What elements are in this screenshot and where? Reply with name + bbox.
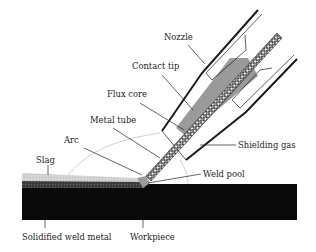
fcaw-diagram: Nozzle Contact tip Flux core Metal tube … xyxy=(0,0,316,252)
workpiece-block xyxy=(22,184,297,220)
label-flux-core: Flux core xyxy=(107,89,147,99)
leader-nozzle xyxy=(188,45,205,64)
wire-electrode xyxy=(146,33,282,181)
leader-arc xyxy=(84,148,142,175)
label-shielding-gas: Shielding gas xyxy=(238,140,296,150)
gas-envelope-left xyxy=(68,133,160,175)
label-weld-pool: Weld pool xyxy=(203,169,245,179)
label-contact-tip: Contact tip xyxy=(132,61,179,71)
slag-layer xyxy=(22,173,142,182)
label-metal-tube: Metal tube xyxy=(90,115,136,125)
leader-metal-tube xyxy=(113,128,160,158)
label-workpiece: Workpiece xyxy=(130,232,175,242)
label-solidified-weld-metal: Solidified weld metal xyxy=(22,232,112,242)
gas-envelope-right xyxy=(180,160,188,184)
label-slag: Slag xyxy=(36,155,55,165)
label-nozzle: Nozzle xyxy=(164,32,193,42)
label-arc: Arc xyxy=(63,135,79,145)
